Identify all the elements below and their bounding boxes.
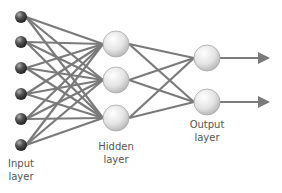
hidden-layer-label-2: layer [103, 154, 129, 165]
hidden-node [103, 31, 129, 57]
edge-hidden-output [129, 58, 194, 80]
hidden-node [103, 105, 129, 131]
output-node [194, 45, 220, 71]
input-node [15, 62, 27, 74]
input-node [15, 11, 27, 23]
output-layer-label-2: layer [194, 132, 220, 143]
output-arrows [220, 58, 268, 102]
edge-input-hidden [26, 118, 103, 119]
input-layer-label: Input [8, 158, 34, 169]
hidden-layer-label: Hidden [98, 141, 133, 152]
edge-input-hidden [26, 17, 103, 118]
edge-input-hidden [26, 42, 103, 44]
neural-network-diagram: Input layer Hidden layer Output layer [0, 0, 282, 193]
output-layer-label: Output [190, 119, 225, 130]
edge-hidden-output [129, 44, 194, 102]
edge-input-hidden [26, 44, 103, 145]
output-node [194, 89, 220, 115]
edge-hidden-output [129, 44, 194, 58]
input-node [15, 113, 27, 125]
input-node [15, 139, 27, 151]
input-node [15, 36, 27, 48]
input-node [15, 88, 27, 100]
hidden-node [103, 67, 129, 93]
edge-hidden-output [129, 80, 194, 102]
input-layer-label-2: layer [8, 171, 34, 182]
